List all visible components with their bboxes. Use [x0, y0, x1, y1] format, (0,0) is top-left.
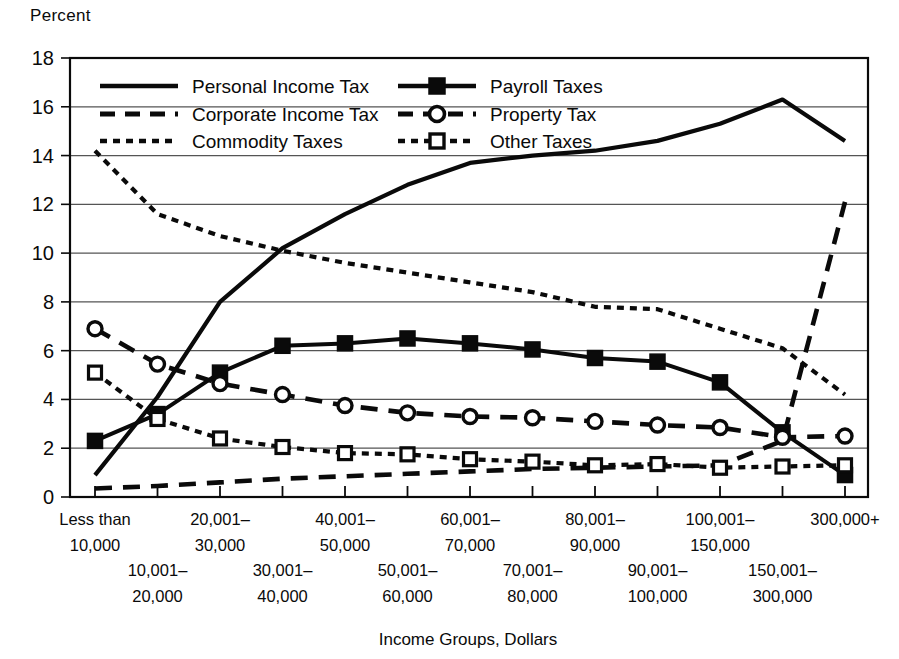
data-marker-filled-square	[713, 375, 728, 390]
data-marker-open-circle	[838, 429, 852, 443]
x-label-lower-4: 90,001–100,000	[628, 561, 688, 605]
data-marker-open-circle	[276, 388, 290, 402]
x-label-line2: 70,000	[445, 536, 495, 554]
data-marker-open-circle	[88, 322, 102, 336]
x-label-line1: 50,001–	[378, 561, 438, 579]
x-label-line2: 90,000	[570, 536, 620, 554]
data-marker-open-circle	[651, 418, 665, 432]
plot-border	[70, 58, 868, 497]
data-marker-open-circle	[526, 411, 540, 425]
x-label-line1: 30,001–	[253, 561, 313, 579]
legend-entry-1: Payroll Taxes	[398, 76, 603, 97]
y-tick-label: 2	[43, 437, 54, 459]
data-marker-filled-square	[338, 336, 353, 351]
legend-label: Property Tax	[490, 104, 597, 125]
x-label-upper-4: 80,001–90,000	[565, 510, 625, 554]
tax-share-line-chart: 024681012141618 Personal Income TaxPayro…	[0, 0, 899, 659]
data-marker-open-circle	[463, 410, 477, 424]
legend-label: Corporate Income Tax	[192, 104, 379, 125]
x-label-upper-6: 300,000+	[810, 510, 879, 528]
x-label-line1: Less than	[59, 510, 131, 528]
data-marker-open-square	[89, 366, 102, 379]
data-marker-open-square	[839, 459, 852, 472]
data-marker-filled-square	[588, 350, 603, 365]
x-label-line2: 60,000	[382, 587, 432, 605]
y-tick-label: 12	[32, 193, 54, 215]
x-label-upper-1: 20,001–30,000	[190, 510, 250, 554]
legend-marker-open-circle	[430, 107, 445, 122]
data-marker-open-square	[276, 441, 289, 454]
legend-label: Personal Income Tax	[192, 76, 370, 97]
x-label-lower-3: 70,001–80,000	[503, 561, 563, 605]
y-tick-label: 16	[32, 96, 54, 118]
data-marker-filled-square	[400, 331, 415, 346]
x-label-line2: 50,000	[320, 536, 370, 554]
x-label-line2: 10,000	[70, 536, 120, 554]
data-marker-open-circle	[776, 430, 790, 444]
data-marker-filled-square	[525, 342, 540, 357]
data-marker-open-square	[151, 412, 164, 425]
y-tick-label: 0	[43, 486, 54, 508]
y-tick-label: 14	[32, 145, 54, 167]
y-tick-label: 6	[43, 340, 54, 362]
legend-entry-5: Other Taxes	[398, 131, 592, 152]
data-marker-open-circle	[713, 420, 727, 434]
x-label-line2: 100,000	[628, 587, 688, 605]
data-marker-open-square	[339, 447, 352, 460]
data-marker-open-square	[526, 455, 539, 468]
x-label-lower-1: 30,001–40,000	[253, 561, 313, 605]
data-marker-open-circle	[338, 399, 352, 413]
data-marker-filled-square	[88, 433, 103, 448]
x-label-line1: 90,001–	[628, 561, 688, 579]
data-series-layer	[88, 100, 853, 489]
x-label-lower-5: 150,001–300,000	[748, 561, 818, 605]
data-marker-filled-square	[275, 338, 290, 353]
data-marker-open-square	[589, 459, 602, 472]
data-marker-open-square	[464, 453, 477, 466]
y-tick-label: 10	[32, 242, 54, 264]
x-label-line2: 80,000	[507, 587, 557, 605]
x-label-upper-5: 100,001–150,000	[686, 510, 756, 554]
x-label-upper-0: Less than10,000	[59, 510, 131, 554]
x-axis-title: Income Groups, Dollars	[379, 630, 558, 649]
legend-entry-0: Personal Income Tax	[100, 76, 370, 97]
x-label-upper-3: 60,001–70,000	[440, 510, 500, 554]
data-marker-open-square	[714, 461, 727, 474]
x-label-line1: 60,001–	[440, 510, 500, 528]
legend-label: Other Taxes	[490, 131, 592, 152]
chart-legend: Personal Income TaxPayroll TaxesCorporat…	[100, 76, 603, 152]
legend-label: Commodity Taxes	[192, 131, 343, 152]
x-label-line2: 30,000	[195, 536, 245, 554]
data-marker-open-circle	[588, 414, 602, 428]
data-marker-open-square	[401, 448, 414, 461]
legend-entry-4: Commodity Taxes	[100, 131, 343, 152]
legend-marker-filled-square	[429, 78, 445, 94]
plot-frame	[70, 58, 868, 497]
legend-marker-open-square	[430, 134, 444, 148]
x-label-lower-2: 50,001–60,000	[378, 561, 438, 605]
data-marker-open-square	[651, 458, 664, 471]
x-label-line2: 20,000	[132, 587, 182, 605]
legend-label: Payroll Taxes	[490, 76, 603, 97]
x-label-line1: 100,001–	[686, 510, 756, 528]
data-marker-filled-square	[650, 354, 665, 369]
x-label-line1: 300,000+	[810, 510, 879, 528]
x-label-lower-0: 10,001–20,000	[128, 561, 188, 605]
x-label-line1: 70,001–	[503, 561, 563, 579]
x-label-line1: 80,001–	[565, 510, 625, 528]
x-axis-ticks	[95, 486, 845, 497]
x-label-line1: 20,001–	[190, 510, 250, 528]
x-label-line2: 300,000	[753, 587, 813, 605]
y-axis-ticks: 024681012141618	[32, 47, 70, 508]
x-axis-category-labels: Less than10,00020,001–30,00040,001–50,00…	[59, 510, 879, 605]
data-marker-open-circle	[401, 406, 415, 420]
x-label-line2: 40,000	[257, 587, 307, 605]
grid-lines	[70, 107, 868, 448]
x-label-line1: 150,001–	[748, 561, 818, 579]
data-marker-open-circle	[151, 357, 165, 371]
data-marker-open-square	[776, 460, 789, 473]
y-tick-label: 18	[32, 47, 54, 69]
chart-page: Percent 024681012141618 Personal Income …	[0, 0, 899, 659]
x-label-line1: 10,001–	[128, 561, 188, 579]
y-tick-label: 8	[43, 291, 54, 313]
